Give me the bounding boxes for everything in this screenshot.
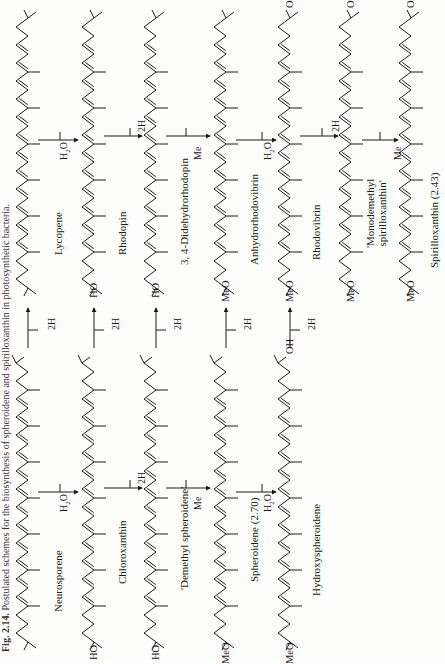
reagent-methyl: Me [392,147,403,160]
carotenoid-chain [12,355,40,650]
reagent-2h: 2H [330,120,341,132]
label-chloroxanthin: Chloroxanthin [116,520,128,584]
cross-reagent-2h: 2H [46,318,57,330]
carotenoid-chain [140,355,168,650]
carotenoid-chain [82,10,106,296]
label-demethyl-spheroidene: 'Demethyl spheroidene' [178,487,190,590]
end-group-ho: HO [88,645,99,660]
end-group-ho: HO [150,283,161,298]
label-monodemethyl-spirilloxanthin: 'Monodemethyl spirilloxanthin' [364,179,388,248]
label-spirilloxanthin: Spirilloxanthin (2.43) [428,173,440,268]
cross-reagent-2h: 2H [306,318,317,330]
reagent-water: H2O [262,142,276,160]
carotenoid-chain [274,355,302,650]
reagent-2h: 2H [136,472,147,484]
end-group-meo: MeO [220,280,231,302]
label-rhodovibrin: Rhodovibrin [310,204,322,260]
carotenoid-chain [144,10,168,296]
reagent-2h: 2H [136,120,147,132]
reagent-water: H2O [58,494,72,512]
label-anhydrorhodovibrin: Anhydrorhodovibrin [248,174,260,265]
label-hydroxyspheroidene: Hydroxyspheroidene [310,504,322,596]
label-rhodopin: Rhodopin [116,212,128,255]
end-group-meo: MeO [345,280,356,302]
end-group-meo: MeO [220,642,231,664]
reagent-water: H2O [58,142,72,160]
label-didehydrorhodopin: 3, 4-Didehydrorhodopin [178,158,190,265]
label-spheroidene: Spheroidene (2.70) [248,498,260,582]
end-group-ho: HO [88,283,99,298]
cross-reagent-2h: 2H [242,318,253,330]
carotenoid-chain [210,355,238,650]
end-group-oh: OH [284,339,295,354]
reagent-methyl: Me [192,497,203,510]
end-group-ho: HO [150,645,161,660]
cross-reagent-2h: 2H [172,318,183,330]
reagent-water: H2O [262,494,276,512]
cross-reagent-2h: 2H [110,318,121,330]
end-group-o: O [405,0,416,8]
carotenoid-chain [78,355,106,650]
end-group-meo: MeO [284,280,295,302]
label-neurosporene: Neurosporene [52,550,64,612]
end-group-o: O [345,0,356,8]
reagent-methyl: Me [192,147,203,160]
carotenoid-chain [339,10,363,296]
carotenoid-chain [16,10,40,296]
label-lycopene: Lycopene [52,212,64,255]
end-group-o: O [284,0,295,8]
label-line-2: spirilloxanthin' [376,179,388,248]
carotenoid-chain [278,10,302,296]
carotenoid-chain [214,10,238,296]
end-group-meo: MeO [405,280,416,302]
end-group-meo: MeO [284,642,295,664]
label-line-1: 'Monodemethyl [364,179,376,248]
